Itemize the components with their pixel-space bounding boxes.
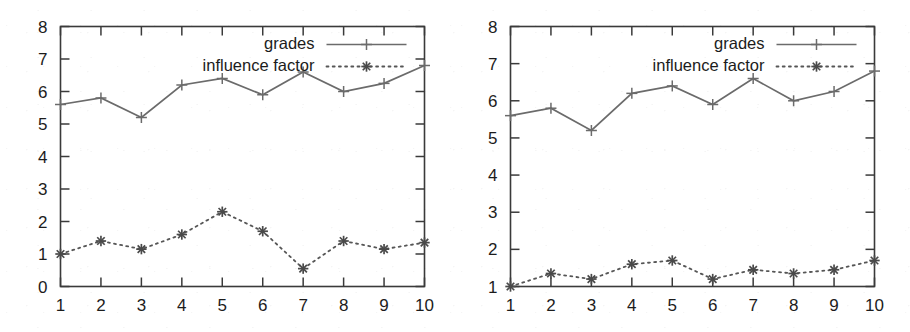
y-tick-label: 4 xyxy=(38,148,47,167)
y-axis-tick-labels-right: 12345678 xyxy=(488,18,497,297)
x-axis-tick-labels-right: 12345678910 xyxy=(506,296,884,315)
x-tick-label: 8 xyxy=(339,296,348,315)
x-tick-label: 9 xyxy=(379,296,388,315)
x-tick-label: 3 xyxy=(587,296,596,315)
x-tick-label: 6 xyxy=(708,296,717,315)
y-tick-label: 1 xyxy=(488,278,497,297)
x-tick-label: 5 xyxy=(218,296,227,315)
line-chart-right: 12345678 12345678910 gradesinfluence fac… xyxy=(455,0,910,332)
legend-label-grades: grades xyxy=(714,34,764,52)
x-tick-label: 1 xyxy=(56,296,65,315)
x-tick-label: 3 xyxy=(137,296,146,315)
x-tick-label: 9 xyxy=(829,296,838,315)
legend-label-grades: grades xyxy=(264,34,314,52)
x-tick-label: 1 xyxy=(506,296,515,315)
legend-label-influence-factor: influence factor xyxy=(653,56,765,74)
x-axis-tick-labels-left: 12345678910 xyxy=(56,296,434,315)
y-tick-label: 8 xyxy=(38,18,47,37)
y-tick-label: 3 xyxy=(488,203,497,222)
y-tick-label: 2 xyxy=(488,240,497,259)
y-tick-label: 2 xyxy=(38,213,47,232)
y-tick-label: 3 xyxy=(38,180,47,199)
y-tick-label: 5 xyxy=(38,115,47,134)
chart-panel-right: 12345678 12345678910 gradesinfluence fac… xyxy=(455,0,910,332)
y-tick-label: 7 xyxy=(38,50,47,69)
y-tick-label: 6 xyxy=(488,92,497,111)
series-influence-factor-left xyxy=(55,207,429,274)
y-tick-label: 0 xyxy=(38,278,47,297)
x-tick-label: 4 xyxy=(177,296,186,315)
series-grades-right xyxy=(505,66,880,136)
x-tick-label: 5 xyxy=(668,296,677,315)
x-tick-label: 10 xyxy=(865,296,884,315)
x-tick-label: 7 xyxy=(748,296,757,315)
y-tick-label: 5 xyxy=(488,129,497,148)
y-tick-label: 8 xyxy=(488,18,497,37)
x-tick-label: 10 xyxy=(415,296,434,315)
y-tick-label: 7 xyxy=(488,55,497,74)
charts-row: 012345678 12345678910 gradesinfluence fa… xyxy=(0,0,910,332)
y-tick-label: 6 xyxy=(38,83,47,102)
x-tick-label: 2 xyxy=(546,296,555,315)
legend-left: gradesinfluence factor xyxy=(203,34,407,74)
x-tick-label: 8 xyxy=(789,296,798,315)
y-axis-tick-labels-left: 012345678 xyxy=(38,18,47,297)
x-tick-label: 7 xyxy=(298,296,307,315)
y-tick-label: 4 xyxy=(488,166,497,185)
x-tick-label: 4 xyxy=(627,296,636,315)
x-tick-label: 2 xyxy=(96,296,105,315)
chart-panel-left: 012345678 12345678910 gradesinfluence fa… xyxy=(0,0,455,332)
x-tick-label: 6 xyxy=(258,296,267,315)
legend-right: gradesinfluence factor xyxy=(653,34,857,74)
y-tick-label: 1 xyxy=(38,245,47,264)
legend-label-influence-factor: influence factor xyxy=(203,56,315,74)
line-chart-left: 012345678 12345678910 gradesinfluence fa… xyxy=(0,0,455,332)
